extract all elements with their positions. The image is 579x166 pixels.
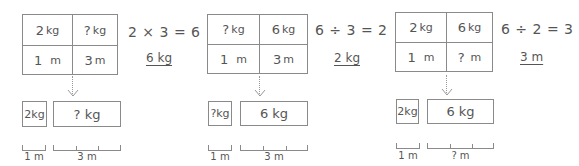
cell-top-right: 6kg: [447, 13, 492, 43]
value: 1: [408, 50, 416, 65]
small-box: 2kg: [396, 99, 419, 124]
cell-top-left: 2kg: [396, 13, 447, 43]
unit: kg: [419, 21, 432, 34]
small-ruler: [396, 143, 420, 149]
cell-bottom-right: ?m: [447, 43, 492, 71]
unit: kg: [468, 21, 481, 34]
ratio-table: 2kg 6kg 1m ?m: [395, 12, 493, 72]
cell-bottom-left: 1m: [396, 43, 447, 71]
unit: m: [471, 51, 482, 64]
big-box: 6 kg: [427, 99, 494, 124]
big-ruler-label: ? m: [427, 150, 494, 161]
value: 2: [409, 20, 417, 35]
answer: 3 m: [520, 50, 543, 64]
small-ruler-label: 1 m: [394, 150, 422, 161]
equation: 6 ÷ 2 = 3: [501, 21, 573, 37]
unit: m: [424, 51, 435, 64]
panel-3-division: 2kg 6kg 1m ?m 6 ÷ 2 = 3 3 m 2kg 6 kg 1 m…: [0, 0, 579, 166]
value: 6: [458, 20, 466, 35]
value: ?: [458, 50, 465, 65]
down-arrow-icon: [441, 75, 453, 97]
big-ruler: [427, 143, 494, 149]
